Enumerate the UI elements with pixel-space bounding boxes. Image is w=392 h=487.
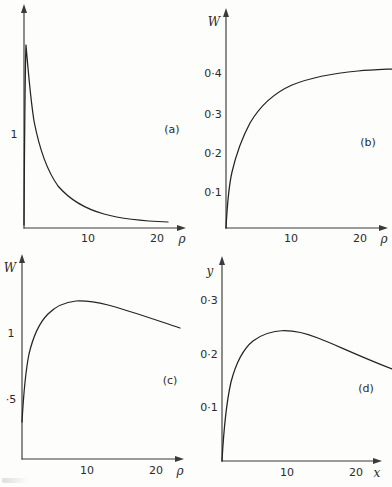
panel-d-curve (222, 331, 392, 462)
panel-c-y-axis-arrowhead (19, 254, 25, 263)
panel-d-xtick-10: 10 (280, 466, 294, 479)
panel-b-ytick-02: 0·2 (204, 147, 222, 160)
panel-d-svg: 0·3 0·2 0·1 y 10 20 x (d) (196, 244, 392, 487)
panel-d-ytick-03: 0·3 (200, 294, 218, 307)
panel-d-x-axis-label: x (374, 466, 381, 480)
panel-c-label: (c) (163, 374, 178, 387)
figure-four-panel-plots: 1 10 20 ρ (a) 0·4 0·3 0·2 0·1 W (0, 0, 392, 487)
panel-c-y-axis-label: W (4, 261, 18, 275)
panel-c-xtick-20: 20 (149, 464, 163, 477)
panel-c-x-axis-arrowhead (175, 456, 184, 462)
panel-b-x-axis-arrowhead (379, 225, 388, 231)
panel-b-ytick-01: 0·1 (204, 186, 222, 199)
panel-c-svg: 1 ·5 W 10 20 ρ (c) (0, 244, 196, 487)
panel-d-label: (d) (358, 382, 374, 395)
scan-artifact (2, 478, 28, 483)
panel-d-xtick-20: 20 (349, 466, 363, 479)
panel-b-ytick-03: 0·3 (204, 108, 222, 121)
panel-d-y-axis-arrowhead (219, 256, 225, 265)
panel-d: 0·3 0·2 0·1 y 10 20 x (d) (196, 244, 392, 487)
panel-a-x-axis-arrowhead (177, 225, 186, 231)
panel-a-y-axis-arrowhead (21, 4, 27, 13)
panel-b-y-axis-arrowhead (223, 8, 229, 17)
panel-b-ytick-04: 0·4 (204, 67, 222, 80)
panel-a: 1 10 20 ρ (a) (0, 0, 196, 244)
panel-d-ytick-01: 0·1 (200, 401, 218, 414)
panel-c-ytick-05: ·5 (6, 393, 17, 406)
panel-c-curve (22, 301, 180, 422)
panel-b-label: (b) (360, 136, 376, 149)
panel-d-ytick-02: 0·2 (200, 348, 218, 361)
panel-c-ytick-1: 1 (8, 327, 15, 340)
panel-d-x-axis-arrowhead (373, 458, 382, 464)
panel-a-ytick-1: 1 (11, 128, 18, 141)
panel-c-xtick-10: 10 (80, 464, 94, 477)
panel-d-y-axis-label: y (206, 264, 214, 278)
panel-a-label: (a) (164, 123, 179, 136)
panel-c-x-axis-label: ρ (175, 464, 183, 478)
panel-a-svg: 1 10 20 ρ (a) (0, 0, 196, 244)
panel-a-curve (24, 45, 168, 225)
panel-b-svg: 0·4 0·3 0·2 0·1 W 10 20 ρ (b) (196, 0, 392, 244)
panel-b-y-axis-label: W (208, 15, 222, 29)
panel-b: 0·4 0·3 0·2 0·1 W 10 20 ρ (b) (196, 0, 392, 244)
panel-c: 1 ·5 W 10 20 ρ (c) (0, 244, 196, 487)
